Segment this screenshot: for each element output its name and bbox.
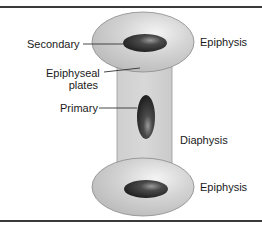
secondary-label: Secondary xyxy=(27,38,80,50)
secondary-ossification-center-top xyxy=(123,34,167,52)
epiphysis-top-label: Epiphysis xyxy=(200,36,247,48)
primary-label: Primary xyxy=(60,102,98,114)
epiphyseal-plates-label-line1: Epiphyseal xyxy=(46,67,98,79)
epiphysis-bottom-label: Epiphysis xyxy=(200,181,247,193)
secondary-ossification-center-bottom xyxy=(124,180,168,198)
primary-ossification-center xyxy=(137,95,155,139)
diaphysis-label: Diaphysis xyxy=(180,134,228,146)
epiphyseal-plates-label-line2: plates xyxy=(46,79,98,91)
